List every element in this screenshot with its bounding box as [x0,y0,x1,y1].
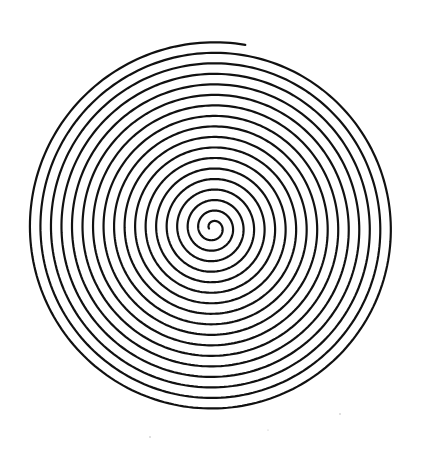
spiral-drawing [0,0,426,456]
speck [339,413,341,415]
speck [149,436,151,438]
spiral-line [30,42,391,408]
speck [267,429,268,430]
